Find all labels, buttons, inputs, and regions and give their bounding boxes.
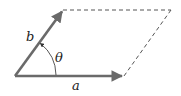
parallelogram-diagram: b θ a [0, 0, 181, 96]
dashed-right-side [124, 10, 171, 76]
label-theta: θ [55, 50, 63, 65]
label-a: a [72, 78, 80, 93]
angle-theta-arc [41, 44, 57, 76]
label-b: b [26, 29, 34, 44]
